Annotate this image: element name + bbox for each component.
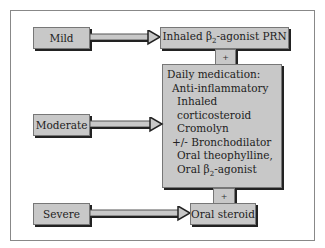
severe-box: Severe <box>33 203 90 225</box>
arrow-severe-to-oral-steroid-icon <box>90 206 192 222</box>
daily-medication-box: Daily medication: Anti-inflammatory Inha… <box>162 64 282 188</box>
bronchodilator-label: +/- Bronchodilator <box>167 136 277 150</box>
arrow-mild-to-inhaled-icon <box>90 30 162 46</box>
daily-item: Oral theophylline, <box>167 149 277 163</box>
moderate-label: Moderate <box>36 119 88 131</box>
daily-item: Oral β2-agonist <box>167 163 277 182</box>
severe-label: Severe <box>43 208 80 220</box>
oral-steroid-box: Oral steroid <box>190 203 256 225</box>
anti-inflammatory-label: Anti-inflammatory <box>167 82 277 96</box>
moderate-box: Moderate <box>33 114 90 136</box>
daily-title: Daily medication: <box>167 68 277 82</box>
mild-box: Mild <box>33 27 90 49</box>
oral-steroid-label: Oral steroid <box>191 208 255 220</box>
mild-label: Mild <box>49 32 73 44</box>
daily-item: Cromolyn <box>167 122 277 136</box>
plus-connector-bottom: + <box>213 188 235 204</box>
inhaled-label: Inhaled β2-agonist PRN <box>162 30 286 45</box>
daily-item: Inhaled corticosteroid <box>167 95 277 122</box>
plus-connector-top: + <box>215 49 236 65</box>
arrow-moderate-to-daily-icon <box>90 117 164 133</box>
inhaled-beta-agonist-box: Inhaled β2-agonist PRN <box>160 27 289 49</box>
